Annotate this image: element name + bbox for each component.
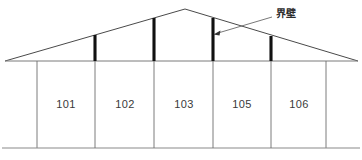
room-label-101: 101: [56, 98, 76, 110]
room-label-106: 106: [289, 98, 309, 110]
room-label-105: 105: [232, 98, 252, 110]
building-section-diagram: 界壁 101 102 103 105 106: [0, 0, 362, 160]
room-label-102: 102: [115, 98, 135, 110]
roof-group: [5, 9, 358, 61]
callout-leader-line: [218, 17, 272, 33]
boundary-wall-callout-label: 界壁: [276, 7, 296, 19]
room-label-103: 103: [174, 98, 194, 110]
diagram-canvas: 界壁 101 102 103 105 106: [0, 0, 362, 160]
boundary-walls-group: [95, 18, 271, 61]
